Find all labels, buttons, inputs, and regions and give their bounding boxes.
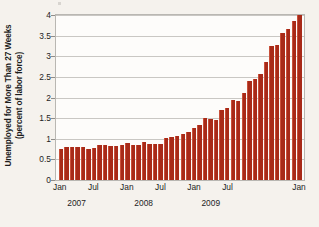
bar <box>81 147 85 180</box>
bar <box>231 100 235 180</box>
y-axis-tick-label: 2.5 <box>29 72 51 82</box>
x-axis-tick-label: Jul <box>155 182 166 192</box>
bar <box>97 145 101 180</box>
bar <box>208 119 212 180</box>
bar <box>108 146 112 180</box>
bar <box>253 79 257 180</box>
x-axis-tick-label: Jan <box>187 182 201 192</box>
bar <box>142 142 146 180</box>
x-axis-year-label: 2008 <box>134 198 153 208</box>
bar <box>269 46 273 180</box>
x-axis-year-label: 2007 <box>67 198 86 208</box>
bar <box>169 137 173 180</box>
bar <box>75 147 79 180</box>
bar <box>136 145 140 180</box>
bar <box>175 136 179 180</box>
x-axis-tick-label: Jan <box>120 182 134 192</box>
y-axis-title-line-2: (percent of labor force) <box>14 24 25 166</box>
bar <box>297 15 301 180</box>
bar <box>203 118 207 180</box>
y-axis-tick-label: 1.5 <box>29 113 51 123</box>
y-axis-tick-label: 0 <box>29 175 51 185</box>
y-axis-tick-label: 0.5 <box>29 154 51 164</box>
y-axis-title: Unemployed for More Than 27 Weeks (perce… <box>0 0 28 190</box>
bar <box>92 148 96 180</box>
bar <box>219 110 223 180</box>
y-axis-tick-label: 2 <box>29 93 51 103</box>
x-axis-tick-label: Jul <box>222 182 233 192</box>
x-axis-ticks: JanJulJanJulJanJulJan <box>55 182 305 196</box>
bar <box>120 145 124 180</box>
bar-series <box>56 15 304 180</box>
bar <box>264 62 268 180</box>
bar <box>59 149 63 180</box>
chart-figure: Unemployed for More Than 27 Weeks (perce… <box>0 0 319 227</box>
bar <box>286 29 290 180</box>
bar <box>131 145 135 180</box>
bar <box>86 149 90 180</box>
bar <box>164 138 168 180</box>
bar <box>225 108 229 180</box>
bar <box>258 74 262 180</box>
bar <box>125 143 129 180</box>
bar <box>158 144 162 180</box>
y-axis-tick-label: 1 <box>29 134 51 144</box>
bar <box>70 147 74 180</box>
bar <box>280 33 284 180</box>
bar <box>64 147 68 180</box>
bar <box>181 134 185 180</box>
y-axis-tick-label: 3.5 <box>29 31 51 41</box>
bar <box>153 144 157 180</box>
bar <box>247 81 251 180</box>
bar <box>192 128 196 180</box>
y-axis-title-line-1: Unemployed for More Than 27 Weeks <box>4 24 15 166</box>
plot-area <box>55 14 305 181</box>
x-axis-tick-label: Jul <box>88 182 99 192</box>
bar <box>236 101 240 180</box>
y-axis-tick-label: 4 <box>29 10 51 20</box>
bar <box>103 145 107 180</box>
bar <box>197 125 201 180</box>
x-axis-tick-label: Jan <box>292 182 306 192</box>
x-axis-year-labels: 200720082009 <box>55 198 305 212</box>
bar <box>186 132 190 180</box>
artifact-speck <box>58 2 61 5</box>
bar <box>114 146 118 180</box>
bar-slot <box>297 15 303 180</box>
x-axis-tick-label: Jan <box>53 182 67 192</box>
bar <box>275 45 279 180</box>
bar <box>242 93 246 180</box>
bar <box>147 144 151 180</box>
bar <box>292 21 296 180</box>
x-axis-year-label: 2009 <box>201 198 220 208</box>
y-axis-tick-label: 3 <box>29 51 51 61</box>
bar <box>214 120 218 180</box>
